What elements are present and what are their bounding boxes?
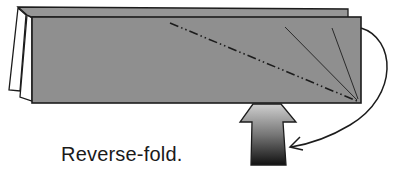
caption: Reverse-fold. bbox=[61, 143, 183, 166]
reverse-fold-diagram bbox=[0, 0, 399, 169]
push-arrow-icon bbox=[240, 104, 296, 165]
paper-front-layer bbox=[32, 17, 361, 103]
left-fold-edges bbox=[9, 8, 32, 101]
